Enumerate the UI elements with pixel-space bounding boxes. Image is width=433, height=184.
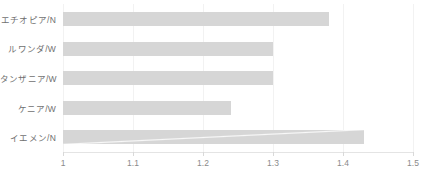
- bar-0: [63, 12, 329, 26]
- tick-mark-1-3: [273, 152, 274, 156]
- tick-mark-1: [63, 152, 64, 156]
- x-axis-line: [63, 152, 413, 153]
- category-label-1: ルワンダ/W: [0, 42, 56, 54]
- bar-row: ルワンダ/W: [0, 34, 433, 64]
- bar-3: [63, 101, 231, 115]
- bar-row: タンザニア/W: [0, 63, 433, 93]
- tick-mark-1-2: [203, 152, 204, 156]
- bar-2: [63, 71, 273, 85]
- category-label-4: イエメン/N: [0, 131, 56, 143]
- bar-1: [63, 42, 273, 56]
- x-axis-tick-labels: 1 1.1 1.2 1.3 1.4 1.5: [0, 158, 433, 172]
- bar-row: エチオピア/N: [0, 4, 433, 34]
- bar-row: イエメン/N: [0, 122, 433, 152]
- tick-mark-1-1: [133, 152, 134, 156]
- category-label-2: タンザニア/W: [0, 72, 56, 84]
- bar-rows: エチオピア/N ルワンダ/W タンザニア/W ケニア/W イエメン/N: [0, 4, 433, 152]
- category-label-0: エチオピア/N: [0, 13, 56, 25]
- bar-row: ケニア/W: [0, 93, 433, 123]
- x-tick-label-3: 1.3: [267, 158, 279, 168]
- x-tick-label-5: 1.5: [407, 158, 419, 168]
- category-label-3: ケニア/W: [0, 102, 56, 114]
- x-tick-label-1: 1.1: [127, 158, 139, 168]
- x-tick-label-2: 1.2: [197, 158, 209, 168]
- x-tick-label-0: 1: [61, 158, 66, 168]
- x-tick-label-4: 1.4: [337, 158, 349, 168]
- bar-chart: エチオピア/N ルワンダ/W タンザニア/W ケニア/W イエメン/N 1 1.…: [0, 0, 433, 184]
- tick-mark-1-5: [413, 152, 414, 156]
- bar-4: [63, 130, 364, 144]
- tick-mark-1-4: [343, 152, 344, 156]
